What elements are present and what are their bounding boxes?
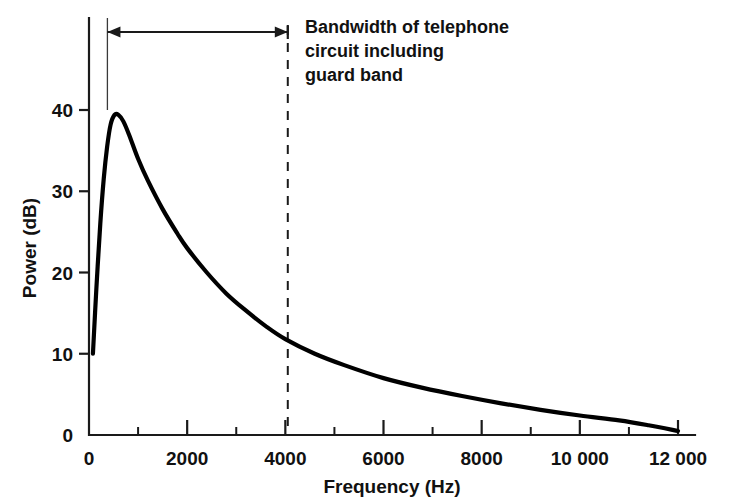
x-tick-label-2000: 2000	[166, 448, 208, 469]
y-tick-label-30: 30	[52, 181, 73, 202]
y-axis-title: Power (dB)	[19, 198, 40, 298]
y-tick-label-10: 10	[52, 344, 73, 365]
annotation-line-3: guard band	[305, 65, 403, 85]
x-tick-label-6000: 6000	[362, 448, 404, 469]
x-tick-label-12000: 12 000	[649, 448, 707, 469]
power-frequency-chart: 010203040 0200040006000800010 00012 000 …	[0, 0, 729, 504]
x-tick-label-0: 0	[84, 448, 95, 469]
annotation-line-1: Bandwidth of telephone	[305, 17, 509, 37]
x-tick-label-10000: 10 000	[551, 448, 609, 469]
y-tick-label-0: 0	[62, 425, 73, 446]
y-tick-label-40: 40	[52, 100, 73, 121]
y-tick-label-20: 20	[52, 263, 73, 284]
x-tick-label-8000: 8000	[461, 448, 503, 469]
figure-container: 010203040 0200040006000800010 00012 000 …	[0, 0, 729, 504]
x-tick-label-4000: 4000	[264, 448, 306, 469]
annotation-line-2: circuit including	[305, 41, 444, 61]
x-axis-title: Frequency (Hz)	[323, 476, 460, 497]
